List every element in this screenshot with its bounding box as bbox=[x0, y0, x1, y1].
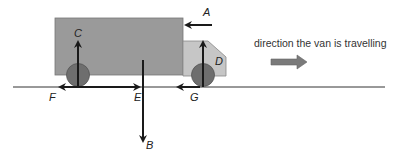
label-d: D bbox=[215, 55, 223, 67]
van-force-diagram: A B C D E F G direction the van is trave… bbox=[0, 0, 395, 167]
direction-arrow-icon bbox=[271, 55, 307, 69]
label-c: C bbox=[74, 27, 82, 39]
direction-caption: direction the van is travelling bbox=[254, 37, 387, 49]
label-a: A bbox=[202, 6, 210, 18]
label-b: B bbox=[146, 139, 153, 151]
label-f: F bbox=[49, 91, 57, 103]
label-e: E bbox=[134, 91, 142, 103]
label-g: G bbox=[190, 91, 199, 103]
